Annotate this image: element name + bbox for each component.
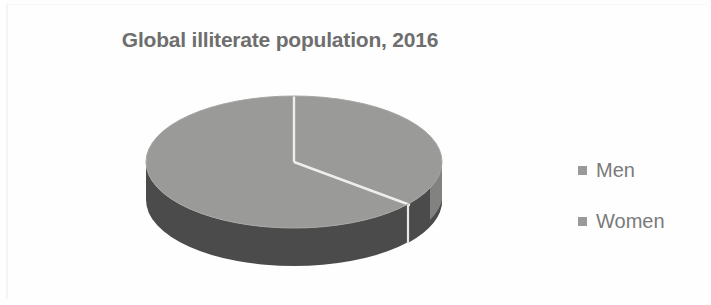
legend-label-women: Women	[596, 210, 665, 233]
legend-item-men[interactable]: Men	[578, 145, 703, 196]
legend-item-women[interactable]: Women	[578, 196, 703, 247]
chart-title: Global illiterate population, 2016	[0, 28, 560, 52]
pie-chart-plot-area	[120, 78, 480, 288]
legend-swatch-icon-men	[578, 166, 587, 175]
chart-legend: Men Women	[578, 145, 703, 247]
legend-swatch-icon-women	[578, 217, 587, 226]
legend-label-men: Men	[596, 159, 635, 182]
pie-chart-figure: Global illiterate population, 2016	[0, 0, 711, 305]
